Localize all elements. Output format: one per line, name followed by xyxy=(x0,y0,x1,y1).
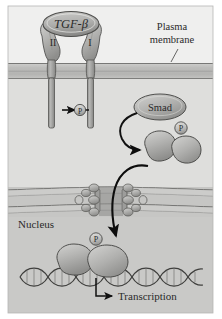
tgf-beta-label: TGF-β xyxy=(54,17,89,31)
phosphate-label-nuclear-complex: P xyxy=(94,235,99,244)
tgf-beta-pathway-diagram: TGF-β II I Plasma membrane Smad P P P Nu… xyxy=(0,0,222,319)
receptor-type-1-label: I xyxy=(88,37,91,48)
plasma-membrane-label-line2: membrane xyxy=(150,34,195,45)
smad-label: Smad xyxy=(148,102,173,113)
phosphate-label-smad-complex: P xyxy=(179,124,184,133)
receptor-type-2-label: II xyxy=(50,37,57,48)
transcription-label: Transcription xyxy=(118,290,177,302)
figure-root: TGF-β II I Plasma membrane Smad P P P Nu… xyxy=(0,0,222,319)
plasma-membrane-label-line1: Plasma xyxy=(157,21,188,32)
phosphate-label-receptor: P xyxy=(78,107,82,116)
nucleus-label: Nucleus xyxy=(18,218,54,230)
diagram-panel xyxy=(8,6,213,313)
